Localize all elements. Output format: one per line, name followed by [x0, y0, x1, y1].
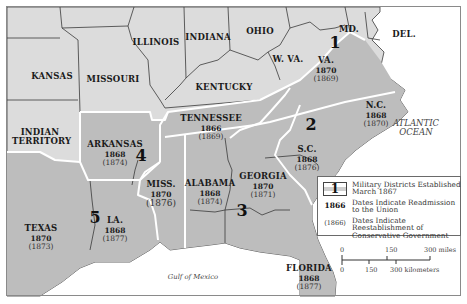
military-district-1: 1 [329, 33, 340, 52]
conservative-year: (1869) [180, 133, 242, 141]
state-label-delaware: DEL. [392, 30, 416, 39]
district-swatch: 1 [323, 182, 347, 196]
legend-row-readmission: 1866 Dates Indicate Readmission to the U… [322, 199, 462, 215]
conservative-year: (1869) [314, 75, 339, 83]
scale-bar: 0 150 300 miles 0 150 300 kilometers [330, 246, 460, 276]
conservative-year: (1876) [146, 199, 176, 208]
state-label-indian-territory: INDIAN TERRITORY [12, 128, 68, 146]
conservative-year: (1877) [286, 283, 332, 291]
state-label-virginia: VA. 1870 (1869) [314, 50, 339, 83]
state-label-kansas: KANSAS [31, 72, 72, 81]
state-label-kentucky: KENTUCKY [196, 83, 253, 92]
conservative-year: (1870) [364, 120, 389, 128]
state-label-texas: TEXAS 1870 (1873) [25, 218, 58, 251]
state-name: MISS. [146, 179, 175, 189]
legend-row-conservative: (1866) Dates Indicate Reestablishment of… [322, 217, 462, 233]
state-name: GEORGIA [239, 171, 286, 181]
state-name: LA. [107, 215, 123, 225]
atlantic-ocean-label: ATLANTIC OCEAN [393, 119, 439, 137]
state-label-south-carolina: S.C. 1868 (1876) [295, 139, 320, 172]
conservative-year: (1876) [295, 164, 320, 172]
state-name: ALABAMA [185, 178, 235, 188]
legend-district-text: Military Districts Established March 186… [352, 181, 464, 196]
legend-conservative-text: Dates Indicate Reestablishment of Conser… [352, 217, 464, 239]
scale-km-150: 150 [365, 266, 377, 274]
state-name: S.C. [297, 144, 316, 154]
state-label-illinois: ILLINOIS [133, 38, 180, 47]
state-label-georgia: GEORGIA 1870 (1871) [239, 166, 286, 199]
state-name: TEXAS [25, 223, 58, 233]
military-district-2: 2 [305, 115, 316, 134]
state-label-mississippi: MISS. 1870 (1876) [146, 174, 176, 208]
conservative-year: (1874) [185, 198, 235, 206]
military-district-4: 4 [135, 146, 146, 165]
military-district-3: 3 [236, 201, 247, 220]
state-label-florida: FLORIDA 1868 (1877) [286, 258, 332, 291]
gulf-of-mexico-label: Gulf of Mexico [168, 274, 218, 281]
state-label-missouri: MISSOURI [87, 75, 140, 84]
state-label-maryland: MD. [339, 25, 359, 34]
state-name: VA. [318, 55, 334, 65]
conservative-year: (1877) [103, 235, 128, 243]
state-label-louisiana: LA. 1868 (1877) [103, 210, 128, 243]
scale-km-0: 0 [340, 266, 344, 274]
conservative-year: (1873) [25, 243, 58, 251]
state-label-ohio: OHIO [246, 27, 274, 36]
readmission-key: 1866 [322, 202, 348, 210]
state-name: FLORIDA [286, 263, 332, 273]
state-name: N.C. [366, 100, 387, 110]
legend: 1 Military Districts Established March 1… [317, 176, 461, 236]
state-label-west-virginia: W. VA. [273, 55, 304, 64]
conservative-year: (1871) [239, 191, 286, 199]
state-name: TENNESSEE [180, 113, 242, 123]
legend-readmission-text: Dates Indicate Readmission to the Union [352, 199, 464, 214]
state-label-north-carolina: N.C. 1868 (1870) [364, 95, 389, 128]
legend-row-districts: 1 Military Districts Established March 1… [322, 181, 462, 197]
atlantic-line2: OCEAN [393, 128, 439, 137]
state-label-tennessee: TENNESSEE 1866 (1869) [180, 108, 242, 141]
military-district-5: 5 [89, 208, 100, 227]
scale-km-300: 300 kilometers [390, 266, 439, 274]
state-label-alabama: ALABAMA 1868 (1874) [185, 173, 235, 206]
state-label-indiana: INDIANA [185, 33, 230, 42]
conservative-key: (1866) [322, 220, 348, 227]
